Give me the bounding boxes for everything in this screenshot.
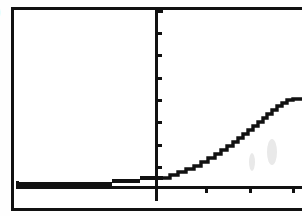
paper-smudge: [249, 153, 255, 171]
graph-plot: [0, 0, 302, 216]
calculator-screenshot: ): [0, 0, 302, 216]
exponential-curve: [163, 99, 302, 178]
paper-smudge: [267, 139, 277, 165]
